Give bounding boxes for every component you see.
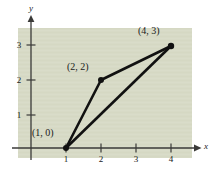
y-tick-label-2: 2 bbox=[14, 76, 24, 85]
y-tick-label-3: 3 bbox=[14, 41, 24, 50]
point-label-4-3: (4, 3) bbox=[138, 26, 160, 36]
coordinate-plot bbox=[0, 0, 218, 174]
x-tick-label-3: 3 bbox=[131, 155, 141, 164]
point-label-2-2: (2, 2) bbox=[67, 62, 89, 72]
x-axis-label: x bbox=[204, 142, 208, 151]
x-tick-label-4: 4 bbox=[166, 155, 176, 164]
y-axis-label: y bbox=[29, 4, 33, 13]
figure-container: y x 3 2 1 1 2 3 4 (1, 0) (2, 2) (4, 3) bbox=[0, 0, 218, 174]
data-point-2-2 bbox=[98, 77, 104, 83]
data-point-1-0 bbox=[63, 145, 69, 151]
data-point-4-3 bbox=[168, 43, 174, 49]
x-tick-label-2: 2 bbox=[96, 155, 106, 164]
point-label-1-0: (1, 0) bbox=[32, 128, 54, 138]
x-tick-label-1: 1 bbox=[61, 155, 71, 164]
y-tick-label-1: 1 bbox=[14, 111, 24, 120]
